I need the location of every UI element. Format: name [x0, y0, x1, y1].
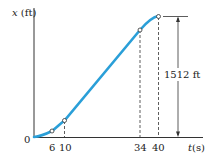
distance-label: 1512 ft — [164, 69, 200, 80]
tick-label-6: 6 — [49, 142, 55, 153]
tick-label-10: 10 — [59, 142, 72, 153]
point-t40 — [157, 15, 161, 19]
position-time-chart: x (ft) 0 6 10 34 40 t(s) 1512 ft — [0, 0, 219, 160]
tick-label-40: 40 — [152, 142, 165, 153]
point-t6 — [50, 129, 54, 133]
x-axis-label: t(s) — [188, 142, 205, 153]
origin-label: 0 — [24, 134, 30, 145]
point-t34 — [138, 28, 142, 32]
tick-label-34: 34 — [134, 142, 147, 153]
arrow-down-icon — [176, 132, 180, 138]
arrow-up-icon — [176, 17, 180, 23]
point-t10 — [63, 119, 67, 123]
y-axis-label: x (ft) — [12, 7, 36, 18]
